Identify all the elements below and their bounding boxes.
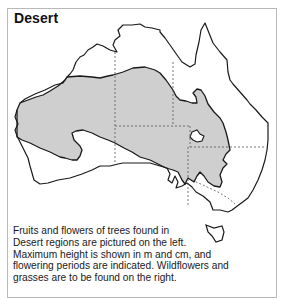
caption-line-1: Fruits and flowers of trees found in — [13, 225, 275, 237]
caption-line-3: Maximum height is shown in m and cm, and — [13, 249, 275, 261]
caption-line-4: flowering periods are indicated. Wildflo… — [13, 260, 275, 272]
map-caption: Fruits and flowers of trees found in Des… — [13, 225, 275, 284]
desert-region — [17, 67, 230, 187]
caption-line-5: grasses are to be found on the right. — [13, 272, 275, 284]
caption-line-2: Desert regions are pictured on the left. — [13, 237, 275, 249]
